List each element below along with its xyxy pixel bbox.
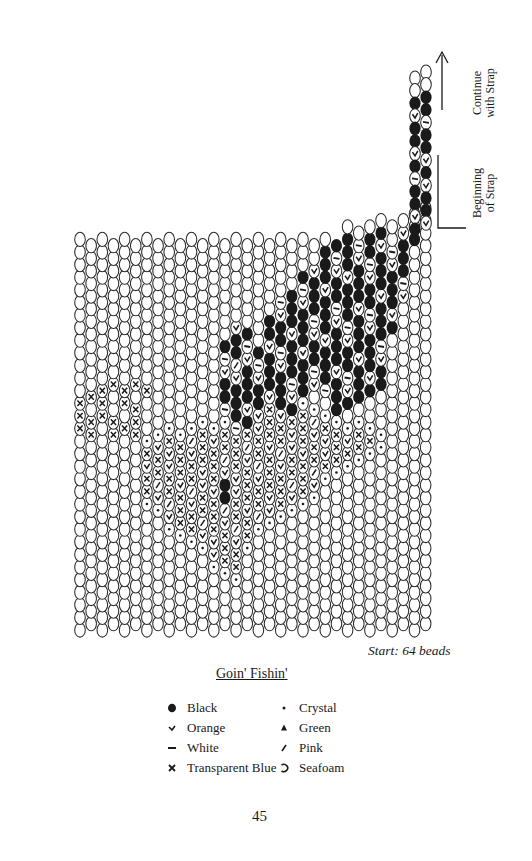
white-dash-icon xyxy=(165,739,179,757)
pink-slash-icon xyxy=(277,739,291,757)
beginning-bracket-icon xyxy=(438,155,466,228)
continue-arrow-icon xyxy=(436,52,448,110)
seafoam-open-bead-icon xyxy=(277,759,291,777)
green-triangle-icon xyxy=(277,719,291,737)
bead-grid xyxy=(75,201,431,637)
continue-with-strap-label: Continue with Strap xyxy=(471,57,497,129)
crystal-dot-icon xyxy=(277,699,291,717)
transparent-blue-x-icon xyxy=(165,759,179,777)
bead-pattern-chart xyxy=(0,0,532,861)
strap-beads xyxy=(409,65,431,236)
page-number: 45 xyxy=(252,808,267,825)
orange-check-icon xyxy=(165,719,179,737)
start-bead-count: Start: 64 beads xyxy=(368,643,451,659)
pattern-title: Goin' Fishin' xyxy=(216,666,288,682)
black-bead-icon xyxy=(165,699,179,717)
beginning-of-strap-label: Beginning of Strap xyxy=(471,151,497,235)
